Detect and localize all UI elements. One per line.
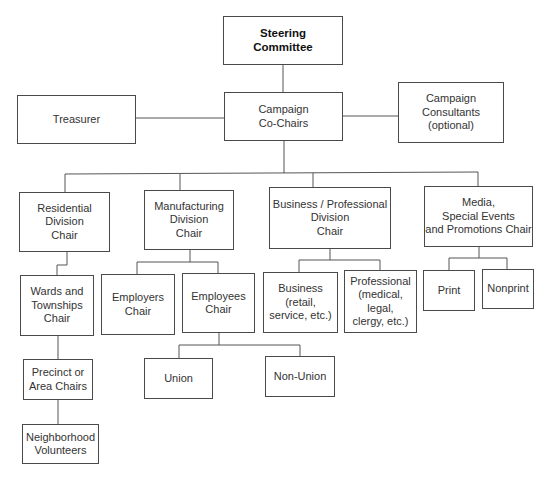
node-union: Union bbox=[144, 358, 213, 399]
node-residential-division-chair: Residential Division Chair bbox=[19, 192, 110, 252]
node-label: Print bbox=[438, 284, 461, 298]
node-steering-committee: Steering Committee bbox=[223, 16, 343, 65]
node-label: Employers Chair bbox=[112, 291, 164, 318]
node-campaign-consultants: Campaign Consultants (optional) bbox=[398, 82, 504, 143]
node-label: Business (retail, service, etc.) bbox=[269, 282, 331, 323]
node-label: Manufacturing Division Chair bbox=[154, 200, 224, 241]
node-business: Business (retail, service, etc.) bbox=[263, 272, 338, 333]
org-chart: Steering Committee Campaign Co-Chairs Tr… bbox=[0, 0, 551, 477]
node-nonprint: Nonprint bbox=[482, 269, 534, 309]
node-print: Print bbox=[423, 270, 475, 311]
node-media-special-events-chair: Media, Special Events and Promotions Cha… bbox=[424, 186, 533, 247]
node-label: Employees Chair bbox=[191, 290, 245, 317]
node-non-union: Non-Union bbox=[265, 356, 335, 397]
node-label: Residential Division Chair bbox=[37, 202, 91, 243]
node-label: Professional (medical, legal, clergy, et… bbox=[350, 275, 411, 329]
node-neighborhood-volunteers: Neighborhood Volunteers bbox=[22, 424, 99, 464]
node-label: Union bbox=[164, 372, 193, 386]
node-campaign-co-chairs: Campaign Co-Chairs bbox=[224, 92, 343, 141]
node-label: Nonprint bbox=[487, 282, 529, 296]
node-label: Neighborhood Volunteers bbox=[26, 431, 95, 458]
node-employers-chair: Employers Chair bbox=[101, 274, 175, 335]
node-business-professional-division-chair: Business / Professional Division Chair bbox=[269, 187, 391, 249]
node-label: Media, Special Events and Promotions Cha… bbox=[425, 196, 531, 237]
node-wards-townships-chair: Wards and Townships Chair bbox=[20, 275, 94, 336]
node-treasurer: Treasurer bbox=[17, 95, 136, 144]
node-label: Business / Professional Division Chair bbox=[273, 198, 387, 239]
node-employees-chair: Employees Chair bbox=[182, 273, 255, 333]
node-label: Wards and Townships Chair bbox=[31, 285, 84, 326]
node-manufacturing-division-chair: Manufacturing Division Chair bbox=[144, 190, 234, 250]
node-label: Campaign Co-Chairs bbox=[258, 103, 308, 130]
node-label: Campaign Consultants (optional) bbox=[422, 92, 480, 133]
node-label: Treasurer bbox=[53, 113, 100, 127]
node-precinct-area-chairs: Precinct or Area Chairs bbox=[23, 359, 93, 400]
node-professional: Professional (medical, legal, clergy, et… bbox=[344, 270, 417, 333]
node-label: Steering Committee bbox=[253, 27, 312, 54]
node-label: Non-Union bbox=[274, 370, 327, 384]
node-label: Precinct or Area Chairs bbox=[29, 366, 87, 393]
